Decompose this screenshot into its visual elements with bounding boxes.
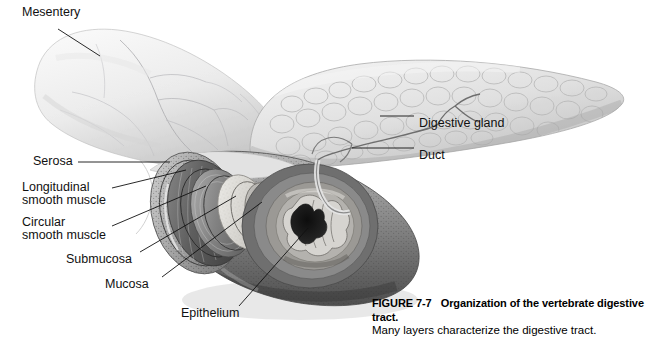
label-mucosa: Mucosa	[105, 278, 149, 292]
caption-line1: FIGURE 7-7 Organization of the vertebrat…	[372, 297, 644, 324]
label-epithelium: Epithelium	[181, 307, 239, 321]
caption-subtitle: Many layers characterize the digestive t…	[372, 324, 644, 338]
label-circular-line2: smooth muscle	[22, 229, 106, 242]
figure-caption: FIGURE 7-7 Organization of the vertebrat…	[372, 297, 644, 338]
label-longitudinal-smooth-muscle: Longitudinal smooth muscle	[22, 181, 106, 207]
label-duct: Duct	[419, 149, 445, 163]
figure-number: FIGURE 7-7	[372, 297, 432, 309]
label-longitudinal-line2: smooth muscle	[22, 194, 106, 207]
label-digestive-gland: Digestive gland	[419, 117, 504, 131]
label-circular-smooth-muscle: Circular smooth muscle	[22, 216, 106, 242]
label-serosa: Serosa	[33, 155, 73, 169]
label-mesentery: Mesentery	[22, 6, 80, 20]
gut-tube	[137, 140, 440, 320]
label-submucosa: Submucosa	[66, 253, 132, 267]
figure-digestive-tract: Mesentery Serosa Longitudinal smooth mus…	[0, 0, 646, 353]
